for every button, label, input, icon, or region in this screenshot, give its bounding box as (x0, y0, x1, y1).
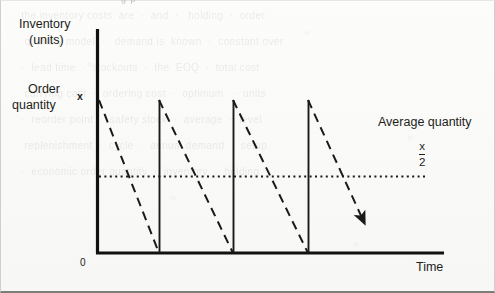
fraction-denominator: 2 (419, 156, 425, 168)
fraction-numerator: x (419, 141, 425, 153)
order-quantity-label-line1: Order (28, 82, 60, 96)
figure-page: the inventory costs are · and · holding … (0, 0, 495, 293)
x-axis-label: Time (416, 260, 443, 274)
average-quantity-label: Average quantity (378, 115, 472, 129)
depletion-line-cycle-4 (308, 100, 363, 220)
average-quantity-fraction: x 2 (419, 141, 425, 168)
origin-label: 0 (80, 257, 86, 268)
depletion-line-cycle-3 (233, 100, 308, 253)
y-axis-label-line2: (units) (29, 33, 64, 47)
fraction-bar (419, 154, 425, 155)
depletion-line-cycle-1 (99, 100, 159, 253)
order-quantity-tick-label: x (77, 90, 83, 102)
order-quantity-label-line2: quantity (12, 98, 56, 112)
y-axis-label-line1: Inventory (19, 17, 70, 31)
